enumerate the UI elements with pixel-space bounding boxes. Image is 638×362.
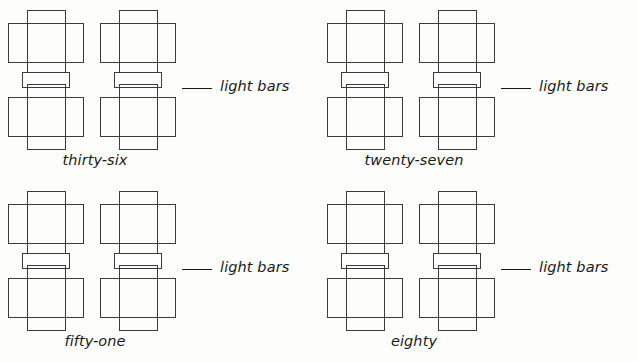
net-vertical-panel <box>346 191 385 257</box>
light-bars-figure <box>8 10 180 150</box>
number-word-label: eighty <box>319 333 509 349</box>
light-bar-net <box>8 10 84 150</box>
net-upper-box <box>100 10 176 76</box>
net-vertical-panel <box>119 191 158 257</box>
net-lower-box <box>100 265 176 331</box>
net-upper-box <box>327 10 403 76</box>
problem-item: light bars eighty <box>319 181 638 362</box>
net-vertical-panel <box>119 265 158 331</box>
net-upper-box <box>8 191 84 257</box>
answer-blank-input[interactable] <box>501 88 531 89</box>
net-vertical-panel <box>438 84 477 150</box>
net-vertical-panel <box>27 265 66 331</box>
answer-row: light bars <box>501 259 608 275</box>
light-bars-figure <box>327 10 499 150</box>
light-bar-net <box>8 191 84 331</box>
net-vertical-panel <box>346 265 385 331</box>
light-bar-net <box>327 10 403 150</box>
net-vertical-panel <box>27 10 66 76</box>
net-vertical-panel <box>438 191 477 257</box>
number-word-label: twenty-seven <box>319 152 509 168</box>
net-vertical-panel <box>27 191 66 257</box>
light-bar-net <box>100 191 176 331</box>
light-bar-net <box>419 10 495 150</box>
net-vertical-panel <box>346 84 385 150</box>
net-lower-box <box>419 265 495 331</box>
net-upper-box <box>100 191 176 257</box>
net-upper-box <box>419 191 495 257</box>
net-vertical-panel <box>346 10 385 76</box>
answer-row: light bars <box>501 78 608 94</box>
net-lower-box <box>8 265 84 331</box>
unit-label: light bars <box>220 259 289 275</box>
net-upper-box <box>8 10 84 76</box>
net-vertical-panel <box>438 265 477 331</box>
worksheet-page: light bars thirty-six <box>0 0 638 362</box>
net-lower-box <box>8 84 84 150</box>
net-lower-box <box>419 84 495 150</box>
unit-label: light bars <box>539 259 608 275</box>
net-vertical-panel <box>119 84 158 150</box>
net-vertical-panel <box>119 10 158 76</box>
unit-label: light bars <box>539 78 608 94</box>
light-bar-net <box>327 191 403 331</box>
problem-item: light bars fifty-one <box>0 181 319 362</box>
answer-row: light bars <box>182 78 289 94</box>
net-lower-box <box>100 84 176 150</box>
problem-item: light bars thirty-six <box>0 0 319 181</box>
answer-row: light bars <box>182 259 289 275</box>
light-bars-figure <box>8 191 180 331</box>
net-vertical-panel <box>438 10 477 76</box>
light-bars-figure <box>327 191 499 331</box>
number-word-label: fifty-one <box>0 333 190 349</box>
net-upper-box <box>419 10 495 76</box>
light-bar-net <box>419 191 495 331</box>
number-word-label: thirty-six <box>0 152 190 168</box>
net-lower-box <box>327 84 403 150</box>
unit-label: light bars <box>220 78 289 94</box>
net-vertical-panel <box>27 84 66 150</box>
light-bar-net <box>100 10 176 150</box>
answer-blank-input[interactable] <box>182 269 212 270</box>
net-upper-box <box>327 191 403 257</box>
net-lower-box <box>327 265 403 331</box>
answer-blank-input[interactable] <box>182 88 212 89</box>
problem-item: light bars twenty-seven <box>319 0 638 181</box>
answer-blank-input[interactable] <box>501 269 531 270</box>
